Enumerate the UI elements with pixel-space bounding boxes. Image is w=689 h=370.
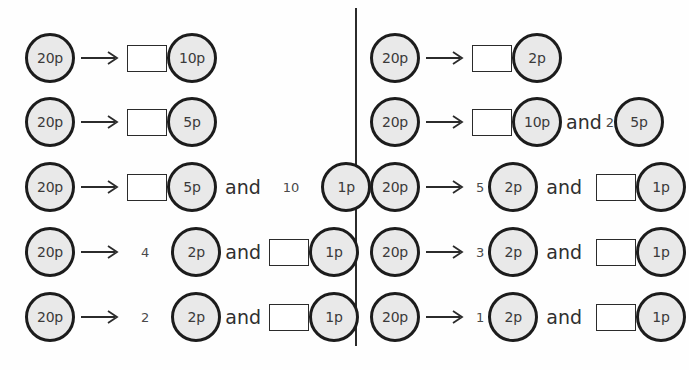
coin-target-1: 5p [167, 97, 217, 147]
count-label-1: 1 [476, 311, 484, 324]
coin-label: 20p [37, 115, 63, 129]
coin-start: 20p [25, 162, 75, 212]
coin-label: 1p [652, 310, 669, 324]
left-column: 20p 10p 20p [0, 0, 355, 370]
answer-box[interactable] [472, 109, 512, 136]
count-label-1: 2 [141, 311, 149, 324]
coin-start: 20p [370, 97, 420, 147]
coin-label: 2p [188, 245, 205, 259]
conjunction-label: and [225, 308, 261, 327]
coin-label: 2p [505, 245, 522, 259]
coin-label: 1p [338, 180, 355, 194]
coin-label: 2p [505, 310, 522, 324]
coin-label: 2p [528, 51, 545, 65]
conjunction-label: and [546, 243, 582, 262]
coin-start: 20p [370, 162, 420, 212]
coin-start: 20p [25, 292, 75, 342]
coin-target-2: 5p [614, 97, 664, 147]
conjunction-label: and [225, 243, 261, 262]
right-column: 20p 2p 20p [355, 0, 689, 370]
coin-target-1: 2p [488, 162, 538, 212]
equation-row: 20p 2 2p and 1p [25, 289, 359, 345]
coin-label: 10p [524, 115, 550, 129]
coin-target-1: 2p [488, 227, 538, 277]
equation-row: 20p 5p and 10 1p [25, 159, 371, 215]
coin-target-1: 2p [512, 33, 562, 83]
equation-row: 20p 4 2p and 1p [25, 224, 359, 280]
coin-label: 1p [652, 180, 669, 194]
right-arrow-icon [424, 48, 468, 68]
coin-target-2: 1p [309, 227, 359, 277]
coin-label: 5p [630, 115, 647, 129]
count-label-1: 3 [476, 246, 484, 259]
coin-start: 20p [25, 227, 75, 277]
count-label-2: 2 [606, 116, 614, 129]
right-arrow-icon [79, 307, 123, 327]
coin-target-1: 10p [512, 97, 562, 147]
coin-label: 10p [179, 51, 205, 65]
equation-row: 20p 10p and 2 5p [370, 94, 664, 150]
conjunction-label: and [566, 113, 602, 132]
coin-label: 1p [325, 310, 342, 324]
coin-target-1: 2p [488, 292, 538, 342]
coin-target-2: 1p [636, 292, 686, 342]
coin-start: 20p [370, 227, 420, 277]
coin-target-1: 2p [171, 292, 221, 342]
answer-box[interactable] [127, 45, 167, 72]
coin-label: 20p [37, 51, 63, 65]
coin-label: 20p [37, 245, 63, 259]
answer-box[interactable] [596, 239, 636, 266]
coin-target-1: 5p [167, 162, 217, 212]
coin-start: 20p [25, 33, 75, 83]
right-arrow-icon [79, 112, 123, 132]
coin-label: 20p [382, 51, 408, 65]
right-arrow-icon [424, 307, 468, 327]
coin-label: 2p [188, 310, 205, 324]
coin-label: 1p [652, 245, 669, 259]
answer-box[interactable] [269, 239, 309, 266]
coin-label: 2p [505, 180, 522, 194]
count-label-1: 4 [141, 246, 149, 259]
equation-row: 20p 10p [25, 30, 217, 86]
right-arrow-icon [424, 242, 468, 262]
coin-label: 20p [382, 245, 408, 259]
coin-start: 20p [370, 33, 420, 83]
conjunction-label: and [546, 178, 582, 197]
right-arrow-icon [424, 177, 468, 197]
answer-box[interactable] [127, 109, 167, 136]
right-arrow-icon [79, 177, 123, 197]
coin-target-2: 1p [636, 227, 686, 277]
answer-box[interactable] [127, 174, 167, 201]
answer-box[interactable] [596, 174, 636, 201]
count-label-2: 10 [283, 181, 300, 194]
coin-start: 20p [370, 292, 420, 342]
coin-label: 20p [37, 180, 63, 194]
equation-row: 20p 5p [25, 94, 217, 150]
coin-start: 20p [25, 97, 75, 147]
coin-label: 1p [325, 245, 342, 259]
answer-box[interactable] [596, 304, 636, 331]
equation-row: 20p 2p [370, 30, 562, 86]
coin-label: 5p [183, 180, 200, 194]
coin-label: 20p [382, 115, 408, 129]
conjunction-label: and [225, 178, 261, 197]
coin-target-1: 2p [171, 227, 221, 277]
answer-box[interactable] [472, 45, 512, 72]
coin-target-2: 1p [309, 292, 359, 342]
equation-row: 20p 5 2p and 1p [370, 159, 686, 215]
coin-label: 20p [382, 180, 408, 194]
equation-row: 20p 1 2p and 1p [370, 289, 686, 345]
right-arrow-icon [79, 242, 123, 262]
coin-target-1: 10p [167, 33, 217, 83]
right-arrow-icon [79, 48, 123, 68]
coin-label: 20p [37, 310, 63, 324]
count-label-1: 5 [476, 181, 484, 194]
equation-row: 20p 3 2p and 1p [370, 224, 686, 280]
coin-target-2: 1p [636, 162, 686, 212]
coin-label: 20p [382, 310, 408, 324]
worksheet-page: 20p 10p 20p [0, 0, 689, 370]
answer-box[interactable] [269, 304, 309, 331]
coin-label: 5p [183, 115, 200, 129]
conjunction-label: and [546, 308, 582, 327]
right-arrow-icon [424, 112, 468, 132]
